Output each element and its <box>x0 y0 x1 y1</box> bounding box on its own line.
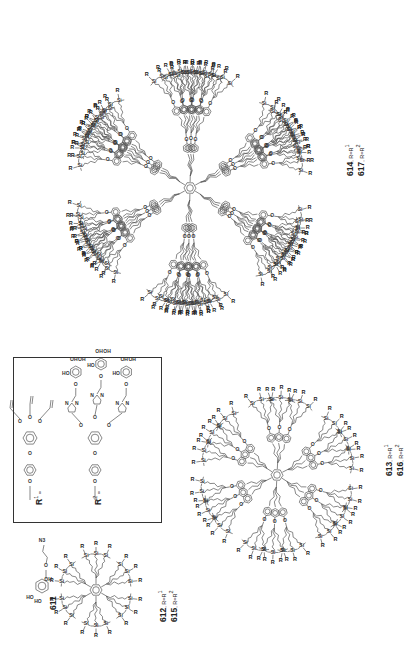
benzene-ring-icon <box>260 160 269 168</box>
r-group-terminal: R <box>229 400 233 406</box>
r-group-terminal: R <box>261 281 265 287</box>
r-group-terminal: R <box>306 550 310 556</box>
oxygen-atom: O <box>117 235 121 241</box>
r-group-terminal: R <box>159 305 163 311</box>
oxygen-atom: O <box>267 425 271 431</box>
oxygen-atom: O <box>107 219 111 225</box>
silicon-atom: Si <box>76 211 81 217</box>
oxygen-atom: O <box>123 242 127 248</box>
aromatic-circle-icon <box>306 493 311 498</box>
r-group-terminal: R <box>301 229 305 235</box>
compound-label-614: 614, R=R1 <box>344 145 355 176</box>
compound-label-615: 615, R=R2 <box>168 591 179 622</box>
silicon-atom: Si <box>105 260 110 266</box>
silicon-atom: Si <box>290 239 295 245</box>
r-group-terminal: R <box>134 609 138 615</box>
r1-equals: = <box>37 491 43 496</box>
r-group-terminal: R <box>124 553 128 559</box>
benzene-ring-icon <box>236 481 245 490</box>
r-group-terminal: R <box>192 445 196 451</box>
oxygen-atom: O <box>177 272 181 278</box>
r-group-terminal: R <box>354 505 358 511</box>
oxygen-atom: O <box>112 227 116 233</box>
oxygen-atom: O <box>187 272 191 278</box>
hydroxyl-group: OH <box>95 348 103 354</box>
oxygen-atom: O <box>259 134 263 140</box>
oxygen-atom: O <box>288 426 292 432</box>
benzene-ring-icon <box>263 507 272 515</box>
r-group-terminal: R <box>217 63 221 69</box>
r-group-terminal: R <box>208 418 212 424</box>
r2-letter: R <box>93 499 103 505</box>
aromatic-circle-icon <box>128 236 133 241</box>
silicon-atom: Si <box>80 150 85 156</box>
hydroxyl-group: HO <box>34 598 42 604</box>
r-group-terminal: R <box>344 420 348 426</box>
aromatic-circle-icon <box>284 436 289 441</box>
oxygen-atom: O <box>233 165 237 171</box>
silicon-atom: Si <box>147 289 152 295</box>
r-group-terminal: R <box>225 65 229 71</box>
hydroxyl-group: HO <box>26 594 34 600</box>
silicon-atom: Si <box>290 131 295 137</box>
silicon-atom: Si <box>164 297 169 303</box>
r-group-terminal: R <box>217 407 221 413</box>
r-group-terminal: R <box>353 432 357 438</box>
r-assignment-613: , R=R <box>387 448 393 462</box>
aromatic-circle-icon <box>304 449 309 454</box>
aromatic-circle-icon <box>274 472 281 479</box>
compound-613-number: 613 <box>384 462 394 476</box>
r-group-terminal: R <box>94 632 98 638</box>
compound-611-number: 611 <box>48 596 58 610</box>
oxygen-atom: O <box>105 209 109 215</box>
r-group-terminal: R <box>66 212 70 218</box>
aromatic-circle-icon <box>273 510 278 515</box>
r-group-terminal: R <box>310 157 314 163</box>
aromatic-circle-icon <box>308 455 313 460</box>
r-group-terminal: R <box>305 217 309 223</box>
r2-equals: = <box>96 491 102 496</box>
r-group-terminal: R <box>199 309 203 315</box>
r-group-terminal: R <box>295 249 299 255</box>
aromatic-circle-icon <box>252 142 257 147</box>
r-group-terminal: R <box>93 260 97 266</box>
r-group-terminal: R <box>359 467 363 473</box>
oxygen-atom: O <box>253 127 257 133</box>
silicon-atom: Si <box>348 496 353 502</box>
aromatic-circle-icon <box>301 499 306 504</box>
r-group-terminal: R <box>164 62 168 68</box>
silicon-atom: Si <box>262 546 267 552</box>
r-group-terminal: R <box>77 126 81 132</box>
silicon-atom: Si <box>349 465 354 471</box>
silicon-atom: Si <box>216 423 221 429</box>
r-group-terminal: R <box>157 67 161 73</box>
r-group-terminal: R <box>138 577 142 583</box>
compound-label-611: 611 <box>48 596 58 610</box>
oxygen-atom: O <box>262 516 266 522</box>
silicon-atom: Si <box>86 130 91 136</box>
r-group-terminal: R <box>212 307 216 313</box>
benzene-ring-icon <box>282 434 291 442</box>
azide-group: N3 <box>39 537 46 543</box>
benzene-ring-icon <box>238 457 247 466</box>
aromatic-circle-icon <box>124 138 129 143</box>
hydroxyl-group: OH <box>103 348 111 354</box>
compound-616-number: 616 <box>395 462 405 476</box>
silicon-atom: Si <box>84 139 89 145</box>
r-superscript-613: 1 <box>383 445 389 448</box>
r-group-terminal: R <box>170 64 174 70</box>
r-group-terminal: R <box>71 233 75 239</box>
r-group-terminal: R <box>301 389 305 395</box>
r-group-terminal: R <box>236 73 240 79</box>
oxygen-atom: O <box>230 483 234 489</box>
r-assignment-614: , R=R <box>348 148 354 162</box>
silicon-atom: Si <box>226 528 231 534</box>
aromatic-circle-icon <box>238 482 243 487</box>
aromatic-circle-icon <box>241 490 246 495</box>
r-group-terminal: R <box>80 629 84 635</box>
r-group-terminal: R <box>75 140 79 146</box>
r-group-terminal: R <box>204 59 208 65</box>
compound-617-number: 617 <box>356 162 366 176</box>
aromatic-circle-icon <box>261 212 266 217</box>
r-group-terminal: R <box>287 387 291 393</box>
